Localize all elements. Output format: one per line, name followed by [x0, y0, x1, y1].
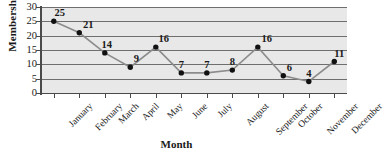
x-tick-mark — [334, 93, 335, 98]
x-tick-mark — [181, 93, 182, 98]
x-tick-label: May — [165, 101, 184, 120]
data-point-label: 6 — [287, 63, 292, 73]
series-line — [54, 21, 335, 81]
data-point-marker — [102, 50, 107, 55]
x-tick-label: April — [140, 101, 161, 122]
x-tick-label: January — [66, 101, 94, 129]
data-point-label: 16 — [159, 34, 170, 44]
x-axis-title: Month — [0, 138, 353, 150]
data-point-marker — [281, 73, 286, 78]
y-tick-label: 15 — [17, 45, 37, 55]
x-tick-mark — [105, 93, 106, 98]
x-tick-mark — [54, 93, 55, 98]
y-tick-mark — [36, 93, 41, 94]
data-point-marker — [153, 44, 158, 49]
data-point-marker — [204, 70, 209, 75]
y-tick-mark — [36, 79, 41, 80]
x-tick-mark — [79, 93, 80, 98]
x-tick-mark — [207, 93, 208, 98]
data-point-marker — [255, 44, 260, 49]
data-point-marker — [306, 79, 311, 84]
data-point-marker — [332, 59, 337, 64]
x-tick-label: August — [244, 101, 270, 127]
data-point-marker — [77, 30, 82, 35]
data-point-label: 7 — [204, 60, 209, 70]
y-tick-label: 25 — [17, 16, 37, 26]
data-point-marker — [179, 70, 184, 75]
y-tick-label: 10 — [17, 59, 37, 69]
x-tick-mark — [309, 93, 310, 98]
x-tick-label: July — [215, 101, 233, 119]
y-tick-label: 5 — [17, 74, 37, 84]
x-tick-mark — [156, 93, 157, 98]
y-tick-label: 20 — [17, 31, 37, 41]
y-tick-label: 0 — [17, 88, 37, 98]
y-tick-mark — [36, 21, 41, 22]
data-point-label: 21 — [83, 20, 94, 30]
x-tick-mark — [258, 93, 259, 98]
data-point-marker — [51, 19, 56, 24]
data-point-label: 14 — [102, 40, 113, 50]
data-point-label: 7 — [179, 60, 184, 70]
y-tick-mark — [36, 64, 41, 65]
data-point-marker — [128, 65, 133, 70]
x-tick-mark — [283, 93, 284, 98]
x-tick-label: June — [190, 101, 209, 120]
y-axis-tick-labels: 051015202530 — [15, 0, 37, 157]
y-tick-mark — [36, 7, 41, 8]
data-point-label: 16 — [262, 34, 273, 44]
data-point-label: 8 — [230, 57, 235, 67]
y-tick-mark — [36, 36, 41, 37]
x-tick-mark — [130, 93, 131, 98]
data-point-label: 9 — [134, 54, 139, 64]
data-point-label: 11 — [334, 49, 344, 59]
data-point-marker — [230, 67, 235, 72]
data-point-label: 25 — [55, 8, 66, 18]
data-point-label: 4 — [306, 69, 311, 79]
y-tick-label: 30 — [17, 2, 37, 12]
x-tick-mark — [232, 93, 233, 98]
y-tick-mark — [36, 50, 41, 51]
